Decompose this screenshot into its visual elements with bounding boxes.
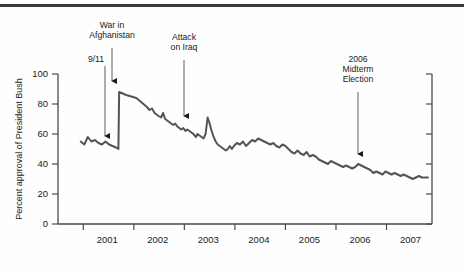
annotation-2006-midterm-election: 2006MidtermElection [342,54,373,154]
annotation-label: 9/11 [88,54,104,64]
y-tick-label: 100 [32,68,48,79]
y-axis-ticks [52,74,58,224]
x-tick-label: 2004 [248,234,269,245]
y-tick-label: 40 [37,158,48,169]
x-axis: 2001200220032004200520062007 [58,224,432,245]
x-tick-label: 2003 [198,234,219,245]
right-axis [426,74,432,224]
x-tick-label: 2007 [400,234,421,245]
approval-line-chart: 020406080100 200120022003200420052006200… [0,0,464,269]
y-tick-label: 60 [37,128,48,139]
y-axis-title: Percent approval of President Bush [14,78,24,220]
annotation-911: 9/11 [88,54,105,136]
x-axis-tick-labels: 2001200220032004200520062007 [97,234,421,245]
x-tick-label: 2001 [97,234,118,245]
annotation-label: War in [100,20,125,30]
annotation-attack-on-iraq: Attackon Iraq [171,32,198,116]
y-axis-tick-labels: 020406080100 [32,68,48,229]
right-axis-ticks [426,74,432,224]
data-series-group [81,92,428,179]
y-tick-label: 0 [43,218,48,229]
annotation-label: 2006 [348,54,367,64]
chart-figure: 020406080100 200120022003200420052006200… [0,0,464,269]
series-line [81,92,428,179]
annotation-label: Midterm [342,64,373,74]
x-tick-label: 2005 [299,234,320,245]
annotation-label: on Iraq [171,42,198,52]
y-tick-label: 20 [37,188,48,199]
x-tick-label: 2002 [147,234,168,245]
annotations-group: 9/11War inAfghanistanAttackon Iraq2006Mi… [88,20,374,154]
x-axis-ticks [83,224,386,230]
annotation-label: Attack [172,32,197,42]
x-tick-label: 2006 [349,234,370,245]
y-axis: 020406080100 [32,68,58,229]
annotation-war-in-afghanistan: War inAfghanistan [89,20,135,81]
annotation-label: Election [343,74,374,84]
y-tick-label: 80 [37,98,48,109]
annotation-label: Afghanistan [89,30,135,40]
